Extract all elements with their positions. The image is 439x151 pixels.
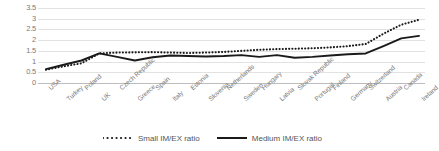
solid-line-swatch — [217, 134, 247, 142]
x-axis: USATurkeyPolandUKCzech RepublicGreeceSpa… — [38, 84, 425, 130]
y-axis-tick-label: 2.5 — [14, 25, 36, 33]
y-axis-tick-label: 3 — [14, 15, 36, 23]
legend-label: Small IM/EX ratio — [138, 134, 200, 143]
y-axis-tick-label: 0 — [14, 79, 36, 87]
legend-item[interactable]: Medium IM/EX ratio — [217, 134, 322, 143]
plot-area: 3.532.521.510.50 — [0, 0, 425, 88]
x-axis-tick-label: Latvia — [278, 86, 295, 103]
y-axis-tick-label: 1.5 — [14, 47, 36, 55]
y-axis-tick-label: 2 — [14, 36, 36, 44]
y-axis: 3.532.521.510.50 — [14, 0, 36, 88]
y-axis-tick-label: 0.5 — [14, 68, 36, 76]
chart-legend: Small IM/EX ratioMedium IM/EX ratio — [0, 130, 425, 146]
y-axis-tick-label: 1 — [14, 58, 36, 66]
y-axis-tick-label: 3.5 — [14, 4, 36, 12]
dotted-line-swatch — [103, 134, 133, 142]
x-axis-tick-label: UK — [100, 91, 111, 102]
x-axis-tick-label: Turkey — [65, 84, 84, 102]
legend-label: Medium IM/EX ratio — [252, 134, 322, 143]
series-line — [46, 20, 419, 70]
legend-item[interactable]: Small IM/EX ratio — [103, 134, 200, 143]
x-axis-tick-label: Italy — [171, 89, 184, 102]
x-axis-tick-label: Austria — [384, 84, 403, 102]
series-line — [46, 36, 419, 69]
x-axis-tick-label: Ireland — [420, 84, 439, 102]
